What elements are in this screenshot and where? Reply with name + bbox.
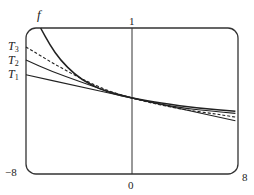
curve-f — [41, 28, 236, 111]
curves — [26, 28, 235, 121]
label-T3-sub: 3 — [15, 45, 19, 54]
y-tick-top: 1 — [129, 16, 135, 27]
label-T1-main: T — [8, 67, 15, 81]
x-tick-left: −8 — [5, 167, 17, 178]
x-tick-origin: 0 — [128, 180, 134, 191]
label-T1: T1 — [8, 68, 19, 82]
label-T3: T3 — [8, 40, 19, 54]
label-T2: T2 — [8, 54, 19, 68]
curve-t1 — [26, 75, 235, 121]
label-f: f — [37, 8, 41, 21]
label-T2-sub: 2 — [15, 59, 19, 68]
curve-t2 — [26, 60, 235, 113]
label-T3-main: T — [8, 39, 15, 53]
taylor-polynomial-chart — [0, 0, 254, 195]
x-tick-right: 8 — [242, 172, 248, 183]
label-T1-sub: 1 — [15, 73, 19, 82]
label-T2-main: T — [8, 53, 15, 67]
